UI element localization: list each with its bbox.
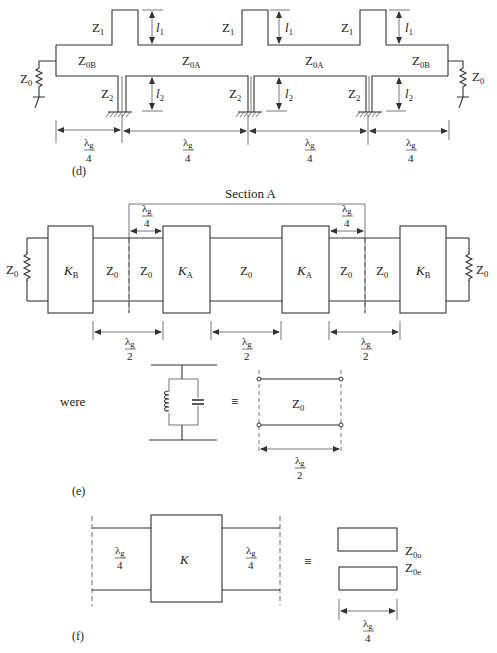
lc-tank-circuit [149, 365, 217, 440]
svg-text:2: 2 [127, 350, 133, 362]
svg-text:l2: l2 [405, 86, 413, 103]
coupled-line-lower [339, 567, 397, 590]
dimension-l1: l1 [142, 10, 164, 43]
dimension-l1: l1 [270, 10, 293, 43]
svg-text:λg: λg [183, 136, 193, 150]
svg-text:Z0: Z0 [376, 263, 388, 280]
svg-text:4: 4 [248, 559, 254, 571]
stub-label-z1: Z1 [92, 20, 104, 37]
inductor-icon [165, 391, 174, 413]
svg-text:2: 2 [363, 350, 369, 362]
line-label-z0b: Z0B [412, 53, 430, 70]
stub-label-z2: Z2 [229, 86, 241, 103]
stub-label-z2: Z2 [348, 86, 360, 103]
svg-text:Z0: Z0 [106, 263, 118, 280]
stub-label-z1: Z1 [222, 20, 234, 37]
svg-text:Z0: Z0 [140, 263, 152, 280]
were-label: were [60, 394, 85, 409]
section-a-title: Section A [225, 186, 277, 201]
equivalence-sign: ≡ [304, 554, 311, 569]
spacing-dimensions [56, 114, 449, 145]
svg-text:K: K [179, 552, 190, 567]
line-label-z0a: Z0A [182, 53, 201, 70]
svg-text:Z0: Z0 [472, 69, 484, 86]
dimension-l2: l2 [386, 78, 413, 111]
svg-text:λg: λg [295, 454, 305, 468]
filter-diagram: Z0 Z0 Z1 Z1 Z1 Z2 Z2 Z2 Z0B Z0A Z0A Z0B … [0, 0, 497, 653]
svg-text:2: 2 [297, 469, 303, 481]
panel-label-e: (e) [72, 484, 85, 498]
stub-label-z2: Z2 [101, 86, 113, 103]
svg-text:l2: l2 [285, 86, 293, 103]
fraction-lambda-4: λg 4 [342, 202, 353, 229]
svg-text:l1: l1 [156, 20, 164, 37]
equivalence-sign: ≡ [231, 394, 238, 409]
microstrip-outline-bottom [56, 45, 448, 112]
svg-text:λg: λg [361, 335, 371, 349]
fraction-lambda-4: λg 4 [183, 136, 194, 164]
fraction-lambda-4: λg 4 [142, 202, 153, 229]
svg-text:l2: l2 [156, 86, 164, 103]
svg-text:4: 4 [86, 152, 92, 164]
svg-text:4: 4 [344, 217, 350, 229]
svg-text:λg: λg [125, 335, 135, 349]
svg-text:λg: λg [115, 544, 125, 558]
fraction-lambda-2: λg 2 [242, 335, 253, 362]
fraction-lambda-4: λg 4 [115, 544, 126, 571]
fraction-lambda-4: λg 4 [305, 136, 316, 164]
svg-text:l1: l1 [285, 20, 293, 37]
fraction-lambda-4: λg 4 [363, 617, 374, 644]
svg-text:4: 4 [408, 152, 414, 164]
svg-text:Z0: Z0 [240, 263, 252, 280]
svg-text:Z0: Z0 [6, 262, 18, 279]
panel-e-inverter-model: Section A Z0 Z0 [6, 186, 488, 498]
panel-label-f: (f) [72, 629, 84, 643]
dimension-l1: l1 [389, 10, 413, 43]
odd-mode-impedance: Z0o [405, 543, 421, 560]
fraction-lambda-4: λg 4 [246, 544, 257, 571]
dimension-l2: l2 [142, 78, 164, 111]
termination-resistor-right: Z0 [448, 61, 484, 108]
svg-text:2: 2 [244, 350, 250, 362]
panel-label-d: (d) [72, 164, 86, 178]
svg-text:λg: λg [242, 335, 252, 349]
stub-label-z1: Z1 [341, 20, 353, 37]
svg-text:l1: l1 [405, 20, 413, 37]
fraction-lambda-4: λg 4 [406, 136, 417, 164]
coupled-line-upper [338, 528, 397, 551]
svg-text:Z0: Z0 [340, 263, 352, 280]
svg-text:λg: λg [84, 136, 94, 150]
fraction-lambda-2: λg 2 [295, 454, 306, 481]
panel-f-coupled-line-equivalence: K λg 4 λg 4 ≡ Z0o Z0e λg 4 (f) [72, 515, 421, 644]
line-label-z0a: Z0A [305, 53, 324, 70]
svg-text:4: 4 [117, 559, 123, 571]
fraction-lambda-2: λg 2 [361, 335, 372, 362]
svg-text:λg: λg [305, 136, 315, 150]
svg-text:λg: λg [363, 617, 373, 631]
panel-d-stub-filter: Z0 Z0 Z1 Z1 Z1 Z2 Z2 Z2 Z0B Z0A Z0A Z0B … [20, 10, 484, 178]
termination-resistor-left: Z0 [20, 61, 56, 108]
svg-text:4: 4 [144, 217, 150, 229]
half-wave-line-equivalent: Z0 [257, 370, 343, 452]
svg-text:Z0: Z0 [476, 262, 488, 279]
svg-text:4: 4 [307, 152, 313, 164]
svg-text:Z0: Z0 [20, 71, 32, 88]
svg-text:4: 4 [365, 632, 371, 644]
capacitor-icon [192, 398, 204, 406]
fraction-lambda-4: λg 4 [84, 136, 95, 164]
dimension-l2: l2 [266, 78, 293, 111]
svg-text:4: 4 [185, 152, 191, 164]
svg-text:λg: λg [406, 136, 416, 150]
even-mode-impedance: Z0e [405, 560, 421, 577]
line-label-z0b: Z0B [78, 53, 96, 70]
svg-text:Z0: Z0 [292, 396, 304, 413]
fraction-lambda-2: λg 2 [125, 335, 136, 362]
microstrip-outline-top [56, 10, 448, 76]
svg-text:λg: λg [246, 544, 256, 558]
